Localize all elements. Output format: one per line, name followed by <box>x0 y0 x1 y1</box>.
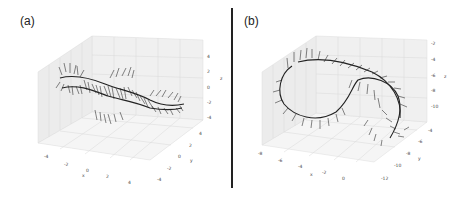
svg-text:2: 2 <box>207 69 210 74</box>
z-axis-label: z <box>220 76 223 81</box>
y-axis-label: y <box>418 156 421 161</box>
x-axis-label: x <box>310 172 313 177</box>
svg-text:0: 0 <box>86 168 89 173</box>
svg-text:-4: -4 <box>207 115 212 120</box>
svg-text:-2: -2 <box>167 166 172 171</box>
panel-a: (a) <box>0 0 228 199</box>
quiver-plot-b: -2 -4 -6 -8 -10 z -8 -6 -4 -2 0 x -12 -1… <box>232 0 458 199</box>
svg-text:-4: -4 <box>157 177 162 182</box>
svg-text:-2: -2 <box>431 41 436 46</box>
svg-text:0: 0 <box>178 154 181 159</box>
svg-text:0: 0 <box>342 176 345 181</box>
svg-text:-8: -8 <box>258 151 263 156</box>
y-axis-label: y <box>190 158 193 163</box>
svg-text:-6: -6 <box>418 139 423 144</box>
z-tick: 4 <box>207 54 210 59</box>
svg-text:-10: -10 <box>394 163 401 168</box>
svg-text:2: 2 <box>189 143 192 148</box>
svg-text:4: 4 <box>128 180 131 185</box>
svg-text:-6: -6 <box>431 73 436 78</box>
svg-text:-6: -6 <box>278 158 283 163</box>
svg-text:-4: -4 <box>431 57 436 62</box>
svg-text:-2: -2 <box>207 100 212 105</box>
svg-text:4: 4 <box>199 131 202 136</box>
z-axis-label: z <box>444 74 447 79</box>
quiver-plot-a: 4 2 0 -2 -4 z -4 -2 0 2 4 x -4 -2 0 2 4 … <box>0 0 228 199</box>
svg-text:0: 0 <box>207 85 210 90</box>
svg-text:-4: -4 <box>298 164 303 169</box>
svg-text:-2: -2 <box>64 162 69 167</box>
panel-b: (b) -2 <box>232 0 458 199</box>
svg-text:2: 2 <box>106 174 109 179</box>
svg-text:-2: -2 <box>322 170 327 175</box>
x-axis-label: x <box>82 173 85 178</box>
svg-text:-12: -12 <box>381 176 388 181</box>
svg-text:-4: -4 <box>428 128 433 133</box>
svg-text:-10: -10 <box>431 104 438 109</box>
svg-text:-8: -8 <box>431 88 436 93</box>
svg-text:-8: -8 <box>406 151 411 156</box>
svg-text:-4: -4 <box>44 154 49 159</box>
